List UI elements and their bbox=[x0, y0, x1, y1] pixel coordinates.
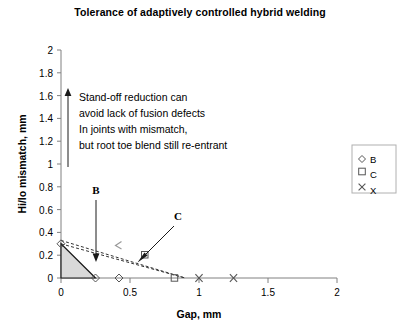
x-tick-label: 0.5 bbox=[123, 287, 137, 298]
chart-container: Tolerance of adaptively controlled hybri… bbox=[0, 0, 400, 335]
y-axis-title: Hi/lo mismatch, mm bbox=[16, 114, 28, 213]
stand-off-note-line: but root toe blend still re-entrant bbox=[79, 139, 227, 151]
y-tick-label: 2 bbox=[47, 45, 53, 56]
legend-label: X bbox=[370, 185, 377, 196]
series-b-callout-label: B bbox=[92, 184, 100, 196]
legend-label: B bbox=[370, 154, 376, 165]
legend: B C X bbox=[352, 145, 396, 196]
y-tick-label: 0.4 bbox=[39, 227, 53, 238]
grey-chevron-icon bbox=[116, 242, 122, 250]
y-tick-label: 0.6 bbox=[39, 205, 53, 216]
legend-label: C bbox=[370, 169, 377, 180]
x-tick-label: 1.5 bbox=[261, 287, 275, 298]
stand-off-note-line: Stand-off reduction can bbox=[79, 91, 188, 103]
y-tick-label: 1.8 bbox=[39, 68, 53, 79]
stand-off-note-line: In joints with mismatch, bbox=[79, 123, 188, 135]
stand-off-arrow-icon bbox=[65, 88, 72, 167]
x-tick-label: 2 bbox=[334, 287, 340, 298]
x-tick-label: 1 bbox=[196, 287, 202, 298]
stand-off-note-line: avoid lack of fusion defects bbox=[79, 107, 205, 119]
y-tick-label: 1.6 bbox=[39, 91, 53, 102]
series-c-callout-arrow-icon bbox=[138, 226, 175, 263]
plot-area: 2 1.8 1.6 1.4 1.2 1 0.8 0.6 0.4 0.2 0 0 … bbox=[0, 0, 400, 335]
series-c-callout-label: C bbox=[174, 210, 182, 222]
y-tick-label: 0 bbox=[47, 273, 53, 284]
y-tick-label: 0.2 bbox=[39, 250, 53, 261]
y-tick-label: 1 bbox=[47, 159, 53, 170]
y-tick-label: 0.8 bbox=[39, 182, 53, 193]
x-tick-label: 0 bbox=[58, 287, 64, 298]
y-tick-label: 1.4 bbox=[39, 113, 53, 124]
x-axis-title: Gap, mm bbox=[177, 308, 222, 320]
y-tick-label: 1.2 bbox=[39, 136, 53, 147]
